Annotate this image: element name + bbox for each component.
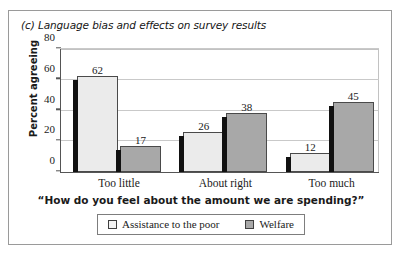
x-tick-label: About right	[199, 177, 252, 189]
bar: 62	[77, 76, 118, 172]
bar-value-label: 26	[198, 120, 209, 132]
legend-item[interactable]: Welfare	[245, 218, 294, 230]
bar: 26	[183, 132, 224, 172]
legend-item[interactable]: Assistance to the poor	[108, 218, 219, 230]
y-tick-label: 80	[44, 31, 55, 43]
plot-wrapper: Percent agreeing 020406080 621726381245 …	[9, 11, 393, 246]
bar-value-label: 12	[305, 141, 316, 153]
plot-area: 020406080 621726381245 Too littleAbout r…	[60, 49, 379, 173]
y-tick-label: 40	[44, 93, 55, 105]
light-swatch-icon	[108, 220, 117, 229]
bar: 38	[226, 113, 267, 172]
bar-group: 2638	[167, 49, 273, 172]
y-tick-label: 0	[50, 154, 56, 166]
y-tick-label: 20	[44, 123, 55, 135]
y-axis-title: Percent agreeing	[28, 29, 39, 149]
bar-value-label: 38	[241, 101, 252, 113]
bar-shadow	[222, 117, 227, 172]
bar-group: 1245	[274, 49, 380, 172]
bar-group: 6217	[61, 49, 167, 172]
bar: 17	[120, 146, 161, 172]
figure-panel: (c) Language bias and effects on survey …	[8, 10, 392, 245]
bar-shadow	[329, 106, 334, 172]
legend-label: Welfare	[259, 218, 294, 230]
bar-shadow	[179, 136, 184, 172]
bar-value-label: 17	[135, 134, 146, 146]
bar-value-label: 62	[92, 64, 103, 76]
bar-shadow	[73, 80, 78, 172]
x-tick-label: Too much	[309, 177, 355, 189]
y-tick-label: 60	[44, 62, 55, 74]
gray-swatch-icon	[245, 220, 254, 229]
x-axis-title: “How do you feel about the amount we are…	[9, 194, 393, 206]
legend-label: Assistance to the poor	[122, 218, 219, 230]
bar: 12	[290, 153, 331, 172]
bar-shadow	[116, 150, 121, 172]
bar-value-label: 45	[348, 90, 359, 102]
bar-shadow	[286, 157, 291, 172]
chart-legend: Assistance to the poorWelfare	[97, 214, 305, 235]
x-tick-label: Too little	[98, 177, 140, 189]
bar: 45	[333, 102, 374, 172]
